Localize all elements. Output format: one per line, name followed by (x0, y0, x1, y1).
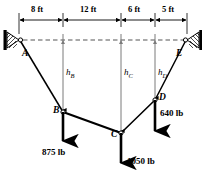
sag-label-hb-sub: B (71, 72, 75, 79)
dimension-extension-lines (19, 13, 187, 34)
sag-top-arrows (61, 40, 157, 44)
sag-label-hc-sub: C (129, 72, 133, 79)
dimension-label-6ft: 6 ft (128, 5, 140, 14)
support-a-pin (4, 30, 23, 50)
node-label-b: B (53, 106, 59, 116)
dimension-label-5ft: 5 ft (162, 5, 174, 14)
dimension-label-8ft: 8 ft (31, 5, 43, 14)
node-label-e: E (176, 49, 182, 59)
node-label-c: C (111, 130, 117, 140)
load-arrows (63, 100, 155, 163)
sag-label-hb: hB (66, 68, 74, 79)
sag-label-hc: hC (124, 68, 133, 79)
support-e-pin (183, 30, 202, 50)
sag-label-hd-sub: D (163, 72, 168, 79)
node-label-a: A (22, 49, 28, 59)
load-label-640lb: 640 lb (160, 109, 183, 118)
cable-segment-cd (121, 100, 155, 133)
load-label-875lb: 875 lb (42, 148, 65, 157)
node-label-d: D (159, 93, 166, 103)
diagram-canvas (0, 0, 202, 175)
sag-label-hd: hD (158, 68, 167, 79)
dimension-label-12ft: 12 ft (80, 5, 96, 14)
cable-diagram-figure: 8 ft 12 ft 6 ft 5 ft A B C D E hB hC hD … (0, 0, 202, 175)
load-label-1050lb: 1050 lb (127, 157, 155, 166)
cable-members (21, 42, 185, 133)
